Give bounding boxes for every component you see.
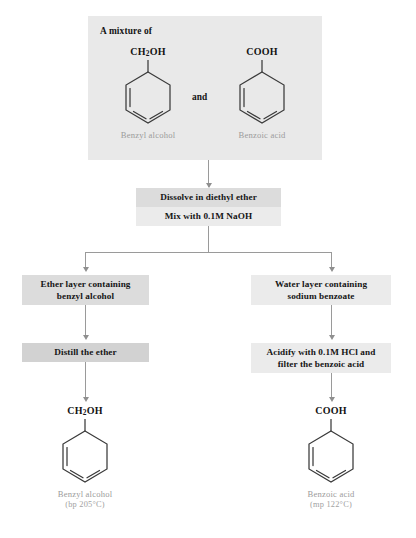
connector-acidify-to-product <box>331 373 332 400</box>
product-benzene-ring-cooh-icon <box>295 419 367 487</box>
molecule-benzyl-alcohol: CH2OH Benzyl alcohol <box>102 46 194 140</box>
product-benzene-ring-ch2oh-icon <box>49 419 121 487</box>
product-label-benzyl-alcohol: Benzyl alcohol <box>39 489 131 499</box>
product-label-benzoic-acid: Benzoic acid <box>285 489 377 499</box>
ether-layer-box: Ether layer containing benzyl alcohol <box>22 275 149 305</box>
distill-box: Distill the ether <box>22 343 149 362</box>
product-property-benzoic-acid: (mp 122°C) <box>285 500 377 509</box>
water-layer-box: Water layer containing sodium benzoate <box>251 275 391 305</box>
water-layer-label: Water layer containing sodium benzoate <box>251 278 391 303</box>
distill-label: Distill the ether <box>22 346 149 358</box>
acidify-label: Acidify with 0.1M HCl and filter the ben… <box>251 346 391 371</box>
arrowhead-to-benzyl-alcohol-product <box>83 397 89 402</box>
benzene-ring-cooh-icon <box>226 60 298 128</box>
acidify-line2: filter the benzoic acid <box>278 359 365 369</box>
benzene-ring-ch2oh-icon <box>112 60 184 128</box>
step-dissolve-label: Dissolve in diethyl ether <box>136 191 281 203</box>
acidify-line1: Acidify with 0.1M HCl and <box>267 347 376 357</box>
acidify-box: Acidify with 0.1M HCl and filter the ben… <box>251 343 391 373</box>
connector-distill-to-product <box>85 362 86 400</box>
mixture-panel: A mixture of CH2OH Benzyl alcohol <box>88 16 322 160</box>
molecule-label-benzoic-acid: Benzoic acid <box>216 130 308 140</box>
connector-ether-to-distill <box>85 305 86 338</box>
connector-split-horizontal <box>85 252 331 253</box>
separation-flowchart: A mixture of CH2OH Benzyl alcohol <box>0 0 416 538</box>
arrowhead-to-distill <box>83 335 89 340</box>
step-mix-box: Mix with 0.1M NaOH <box>136 207 281 226</box>
mixture-title: A mixture of <box>100 26 152 36</box>
connector-water-to-acidify <box>331 305 332 338</box>
connector-mix-down <box>208 226 209 252</box>
product-benzyl-alcohol: CH2OH Benzyl alcohol (bp 205°C) <box>39 405 131 509</box>
product-formula-cooh: COOH <box>285 405 377 419</box>
step-mix-label: Mix with 0.1M NaOH <box>136 210 281 222</box>
ether-layer-line2: benzyl alcohol <box>57 291 114 301</box>
product-formula-ch2oh: CH2OH <box>39 405 131 419</box>
step-dissolve-box: Dissolve in diethyl ether <box>136 188 281 207</box>
arrowhead-to-water-layer <box>329 267 335 272</box>
ether-layer-label: Ether layer containing benzyl alcohol <box>22 278 149 303</box>
arrowhead-to-benzoic-acid-product <box>329 397 335 402</box>
water-layer-line2: sodium benzoate <box>287 291 354 301</box>
molecule-label-benzyl-alcohol: Benzyl alcohol <box>102 130 194 140</box>
product-benzoic-acid: COOH Benzoic acid (mp 122°C) <box>285 405 377 509</box>
formula-cooh: COOH <box>216 46 308 60</box>
ether-layer-line1: Ether layer containing <box>40 279 130 289</box>
water-layer-line1: Water layer containing <box>275 279 367 289</box>
formula-ch2oh: CH2OH <box>102 46 194 60</box>
arrowhead-to-acidify <box>329 335 335 340</box>
arrowhead-to-ether-layer <box>83 267 89 272</box>
conjunction-label: and <box>192 92 207 102</box>
molecule-benzoic-acid: COOH Benzoic acid <box>216 46 308 140</box>
product-property-benzyl-alcohol: (bp 205°C) <box>39 500 131 509</box>
